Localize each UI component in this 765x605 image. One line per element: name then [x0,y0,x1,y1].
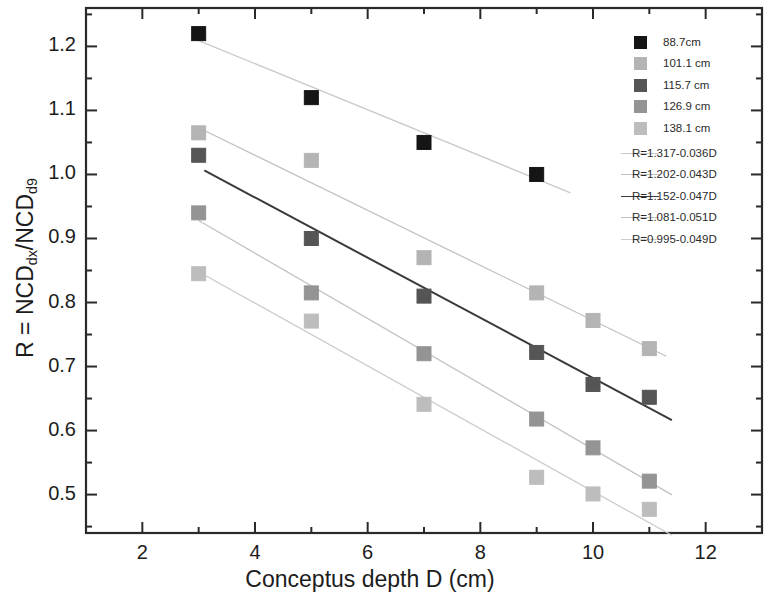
y-tick-label: 0.6 [14,418,76,441]
data-point-0-2 [417,135,431,149]
data-point-0-1 [304,91,318,105]
data-point-4-3 [530,470,544,484]
legend-fit-label-1: R=1.202-0.043D [632,168,717,180]
data-point-1-3 [530,286,544,300]
data-point-2-2 [417,289,431,303]
data-point-1-1 [304,153,318,167]
legend-swatch-2 [634,79,647,92]
plot-frame [86,8,762,533]
legend-fit-label-0: R=1.317-0.036D [632,147,717,159]
data-point-2-3 [530,345,544,359]
data-point-2-1 [304,231,318,245]
legend-swatch-4 [634,122,647,135]
y-tick-label: 0.7 [14,354,76,377]
plot-area [0,0,765,605]
y-tick-label: 0.9 [14,225,76,248]
y-axis-title-sub1: dx [24,250,40,265]
data-point-2-5 [642,390,656,404]
x-tick-label: 2 [122,541,162,564]
y-tick-label: 0.5 [14,482,76,505]
data-point-4-0 [192,267,206,281]
data-point-3-3 [530,412,544,426]
data-point-4-4 [586,487,600,501]
x-tick-label: 12 [686,541,726,564]
fit-line-4 [199,272,672,536]
x-tick-label: 10 [573,541,613,564]
data-point-0-0 [192,27,206,41]
legend-swatch-0 [634,36,647,49]
data-point-2-0 [192,148,206,162]
data-point-0-3 [530,167,544,181]
data-point-1-2 [417,251,431,265]
legend-label-4: 138.1 cm [663,122,710,134]
y-tick-label: 1.2 [14,33,76,56]
data-point-1-0 [192,126,206,140]
legend-label-0: 88.7cm [663,36,701,48]
data-point-3-0 [192,206,206,220]
legend-fit-label-2: R=1.152-0.047D [632,190,717,202]
chart-figure: R = NCDdx/NCDd9 Conceptus depth D (cm) 0… [0,0,765,605]
data-point-4-1 [304,314,318,328]
data-point-3-5 [642,474,656,488]
data-point-3-2 [417,347,431,361]
x-tick-label: 6 [348,541,388,564]
data-point-1-5 [642,342,656,356]
legend-label-3: 126.9 cm [663,100,710,112]
data-point-2-4 [586,377,600,391]
y-axis-title-wrapper: R = NCDdx/NCDd9 [12,108,52,428]
fit-line-2 [204,170,672,420]
y-tick-label: 1.1 [14,97,76,120]
legend-fit-label-4: R=0.995-0.049D [632,233,717,245]
data-point-1-4 [586,313,600,327]
fit-line-3 [199,221,672,495]
y-tick-label: 1.0 [14,161,76,184]
y-tick-label: 0.8 [14,290,76,313]
data-point-4-5 [642,502,656,516]
data-point-3-1 [304,286,318,300]
data-point-4-2 [417,397,431,411]
legend-fit-label-3: R=1.081-0.051D [632,211,717,223]
x-tick-label: 4 [235,541,275,564]
y-axis-title: R = NCDdx/NCDd9 [12,178,38,358]
legend-swatch-1 [634,57,647,70]
legend-swatch-3 [634,100,647,113]
legend-label-2: 115.7 cm [663,79,709,91]
legend-label-1: 101.1 cm [663,57,710,69]
x-axis-title: Conceptus depth D (cm) [0,566,740,593]
x-tick-label: 8 [460,541,500,564]
data-point-3-4 [586,441,600,455]
fit-line-0 [199,41,571,193]
